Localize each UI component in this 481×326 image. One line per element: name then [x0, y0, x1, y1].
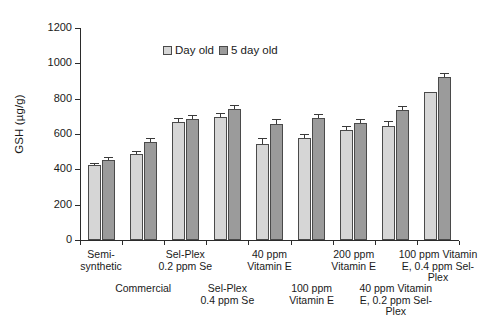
y-axis-tick	[75, 205, 80, 206]
x-axis-tick	[459, 241, 460, 245]
error-bar-cap	[174, 118, 183, 119]
x-axis-tick	[80, 241, 81, 245]
x-axis-tick	[248, 241, 249, 245]
bar-group	[256, 28, 283, 240]
bar-5-day-old	[396, 110, 409, 240]
x-axis-tick	[164, 241, 165, 245]
error-bar-cap	[216, 113, 225, 114]
bar-day-old	[340, 130, 353, 240]
bar-day-old	[88, 165, 101, 240]
bar-group	[340, 28, 367, 240]
bar-day-old	[214, 117, 227, 240]
bar-day-old	[424, 92, 437, 240]
error-bar-cap	[188, 115, 197, 116]
error-bar-cap	[384, 121, 393, 122]
error-bar-cap	[104, 157, 113, 158]
bar-day-old	[382, 126, 395, 240]
y-axis-tick	[75, 28, 80, 29]
error-bar-cap	[342, 126, 351, 127]
y-axis-tick-label: 800	[12, 93, 72, 104]
bar-group	[172, 28, 199, 240]
bar-day-old	[298, 138, 311, 240]
bar-group	[424, 28, 451, 240]
y-axis-tick	[75, 169, 80, 170]
bar-5-day-old	[270, 124, 283, 240]
y-axis-tick-label: 1000	[12, 57, 72, 68]
plot-area: 020040060080010001200	[80, 28, 459, 240]
error-bar-cap	[230, 105, 239, 106]
x-axis-category-label: Commercial	[100, 283, 186, 295]
x-axis-category-label: Sel-Plex 0.2 ppm Se	[142, 249, 228, 272]
y-axis-tick-label: 200	[12, 199, 72, 210]
error-bar-cap	[300, 134, 309, 135]
error-bar-cap	[356, 119, 365, 120]
x-axis-category-label: 40 ppm Vitamin E	[227, 249, 313, 272]
bar-group	[382, 28, 409, 240]
error-bar-cap	[272, 119, 281, 120]
x-axis-category-label: 100 ppm Vitamin E, 0.4 ppm Sel- Plex	[395, 249, 481, 284]
error-bar-cap	[398, 106, 407, 107]
bar-5-day-old	[228, 109, 241, 240]
error-bar-cap	[440, 73, 449, 74]
bar-day-old	[172, 122, 185, 240]
y-axis-tick	[75, 134, 80, 135]
x-axis-category-label: 40 ppm Vitamin E, 0.2 ppm Sel- Plex	[353, 283, 439, 318]
bar-5-day-old	[144, 142, 157, 240]
bar-group	[298, 28, 325, 240]
x-axis-category-label: Sel-Plex 0.4 ppm Se	[184, 283, 270, 306]
bar-5-day-old	[186, 119, 199, 240]
y-axis-tick	[75, 63, 80, 64]
x-axis-tick	[333, 241, 334, 245]
x-axis-category-label: 100 ppm Vitamin E	[269, 283, 355, 306]
y-axis-tick	[75, 99, 80, 100]
error-bar-cap	[132, 151, 141, 152]
bar-group	[214, 28, 241, 240]
x-axis-tick	[375, 241, 376, 245]
bar-day-old	[256, 144, 269, 240]
y-axis-line	[80, 28, 81, 241]
bar-5-day-old	[312, 118, 325, 240]
x-axis-tick	[291, 241, 292, 245]
bar-5-day-old	[102, 160, 115, 240]
x-axis-category-label: Semi- synthetic	[58, 249, 144, 272]
x-axis-tick	[206, 241, 207, 245]
bar-group	[88, 28, 115, 240]
error-bar-cap	[314, 114, 323, 115]
x-axis-category-label: 200 ppm Vitamin E	[311, 249, 397, 272]
x-axis-line	[80, 240, 459, 241]
y-axis-tick-label: 400	[12, 163, 72, 174]
y-axis-tick-label: 600	[12, 128, 72, 139]
y-axis-tick-label: 1200	[12, 22, 72, 33]
x-axis-tick	[417, 241, 418, 245]
x-axis-tick	[122, 241, 123, 245]
error-bar-cap	[258, 138, 267, 139]
bar-group	[130, 28, 157, 240]
error-bar-cap	[90, 163, 99, 164]
bar-5-day-old	[438, 77, 451, 240]
bar-day-old	[130, 154, 143, 240]
bar-5-day-old	[354, 123, 367, 240]
y-axis-tick-label: 0	[12, 234, 72, 245]
error-bar-cap	[146, 138, 155, 139]
